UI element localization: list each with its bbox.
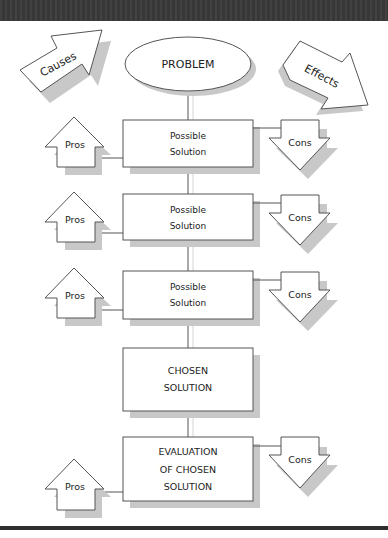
svg-text:OF CHOSEN: OF CHOSEN xyxy=(160,464,216,475)
svg-text:Pros: Pros xyxy=(65,214,85,225)
svg-text:Solution: Solution xyxy=(170,147,207,157)
cons-arrow-3: Cons xyxy=(269,272,338,331)
footer-rule xyxy=(0,526,388,530)
possible-solution-3: Possible Solution xyxy=(123,271,260,326)
causes-arrow: Causes xyxy=(20,30,111,103)
possible-solution-1: Possible Solution xyxy=(123,120,260,174)
svg-text:Pros: Pros xyxy=(65,481,85,492)
svg-text:EVALUATION: EVALUATION xyxy=(158,446,217,457)
svg-text:Possible: Possible xyxy=(170,282,207,292)
svg-text:CHOSEN: CHOSEN xyxy=(168,365,208,376)
possible-solution-2: Possible Solution xyxy=(123,194,260,247)
svg-text:Pros: Pros xyxy=(65,290,85,301)
pros-arrow-3: Pros xyxy=(45,268,111,326)
svg-text:Solution: Solution xyxy=(170,221,207,231)
svg-text:Pros: Pros xyxy=(65,139,85,150)
svg-text:Possible: Possible xyxy=(170,131,207,141)
svg-text:Cons: Cons xyxy=(288,289,311,300)
evaluation-box: EVALUATION OF CHOSEN SOLUTION xyxy=(123,437,260,508)
chosen-solution-box: CHOSEN SOLUTION xyxy=(123,348,260,418)
effects-arrow: Effects xyxy=(278,41,368,115)
cons-arrow-2: Cons xyxy=(269,195,338,254)
svg-text:Cons: Cons xyxy=(288,212,311,223)
pros-arrow-evaluation: Pros xyxy=(45,459,111,518)
svg-text:Possible: Possible xyxy=(170,205,207,215)
problem-label: PROBLEM xyxy=(161,58,214,71)
problem-ellipse: PROBLEM xyxy=(125,37,256,96)
svg-text:Cons: Cons xyxy=(288,454,311,465)
svg-text:SOLUTION: SOLUTION xyxy=(164,481,212,492)
problem-solving-flowchart: Causes Effects PROBLEM Possible Solution… xyxy=(0,0,388,538)
pros-arrow-2: Pros xyxy=(45,192,111,250)
svg-text:Solution: Solution xyxy=(170,298,207,308)
svg-text:Cons: Cons xyxy=(288,137,311,148)
pros-arrow-1: Pros xyxy=(45,117,111,175)
svg-text:SOLUTION: SOLUTION xyxy=(164,382,212,393)
cons-arrow-1: Cons xyxy=(269,120,338,179)
